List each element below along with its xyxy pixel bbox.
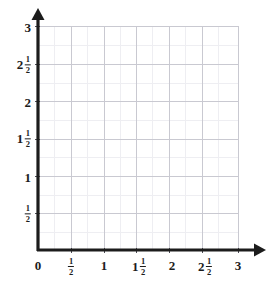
x-tick-5-denominator: 2 bbox=[206, 268, 212, 277]
major-gridlines bbox=[38, 26, 238, 250]
y-tick-1-whole: 1 bbox=[25, 171, 32, 184]
y-tick-label-2-half: 2 1 2 bbox=[17, 55, 31, 74]
y-tick-label-3: 3 bbox=[25, 21, 32, 34]
x-tick-1-fraction: 1 2 bbox=[68, 257, 74, 276]
x-tick-3-value: 1 1 2 bbox=[132, 257, 146, 276]
x-axis-arrowhead bbox=[254, 244, 266, 257]
x-tick-0-value: 0 bbox=[35, 259, 42, 272]
x-tick-4-value: 2 bbox=[169, 259, 176, 272]
y-tick-0-denominator: 2 bbox=[25, 215, 31, 224]
y-tick-2-numerator: 1 bbox=[25, 129, 31, 138]
y-axis bbox=[32, 8, 45, 251]
x-tick-3-numerator: 1 bbox=[140, 257, 146, 266]
x-tick-label-2: 2 bbox=[169, 259, 176, 272]
grid-and-axes bbox=[0, 0, 274, 282]
x-tick-6-whole: 3 bbox=[235, 259, 242, 272]
x-tick-3-whole: 1 bbox=[132, 260, 139, 273]
y-tick-2-whole: 1 bbox=[17, 133, 24, 146]
y-tick-5-whole: 3 bbox=[25, 21, 32, 34]
x-tick-1-denominator: 2 bbox=[68, 268, 74, 277]
x-tick-5-value: 2 1 2 bbox=[198, 257, 212, 276]
x-tick-label-half: 1 2 bbox=[68, 257, 74, 276]
y-tick-label-half: 1 2 bbox=[25, 204, 31, 223]
y-axis-arrowhead bbox=[32, 8, 45, 20]
y-tick-4-whole: 2 bbox=[17, 59, 24, 72]
y-tick-4-fraction: 1 2 bbox=[25, 55, 31, 74]
y-tick-0-fraction: 1 2 bbox=[25, 204, 31, 223]
x-tick-label-3: 3 bbox=[235, 259, 242, 272]
y-tick-1-value: 1 bbox=[25, 171, 32, 184]
y-tick-5-value: 3 bbox=[25, 21, 32, 34]
y-tick-4-numerator: 1 bbox=[25, 55, 31, 64]
x-tick-label-1: 1 bbox=[101, 259, 108, 272]
y-tick-0-numerator: 1 bbox=[25, 204, 31, 213]
coordinate-graph: 0 1 2 1 1 1 2 2 2 bbox=[0, 0, 274, 282]
y-tick-2-value: 1 1 2 bbox=[17, 129, 31, 148]
y-tick-2-denominator: 2 bbox=[25, 140, 31, 149]
x-tick-2-whole: 1 bbox=[101, 259, 108, 272]
x-tick-5-whole: 2 bbox=[198, 260, 205, 273]
x-tick-3-fraction: 1 2 bbox=[140, 257, 146, 276]
x-tick-5-numerator: 1 bbox=[206, 257, 212, 266]
y-tick-label-1-half: 1 1 2 bbox=[17, 129, 31, 148]
x-tick-1-numerator: 1 bbox=[68, 257, 74, 266]
y-tick-label-2: 2 bbox=[25, 96, 32, 109]
y-tick-2-fraction: 1 2 bbox=[25, 129, 31, 148]
y-tick-label-1: 1 bbox=[25, 171, 32, 184]
x-tick-5-fraction: 1 2 bbox=[206, 257, 212, 276]
minor-gridlines bbox=[38, 26, 238, 250]
x-tick-4-whole: 2 bbox=[169, 259, 176, 272]
x-tick-label-2-half: 2 1 2 bbox=[198, 257, 212, 276]
y-tick-3-value: 2 bbox=[25, 96, 32, 109]
x-tick-3-denominator: 2 bbox=[140, 268, 146, 277]
x-tick-6-value: 3 bbox=[235, 259, 242, 272]
y-tick-4-denominator: 2 bbox=[25, 66, 31, 75]
x-tick-2-value: 1 bbox=[101, 259, 108, 272]
y-tick-3-whole: 2 bbox=[25, 96, 32, 109]
x-tick-0-whole: 0 bbox=[35, 259, 42, 272]
y-tick-4-value: 2 1 2 bbox=[17, 55, 31, 74]
x-tick-label-0: 0 bbox=[35, 259, 42, 272]
x-tick-label-1-half: 1 1 2 bbox=[132, 257, 146, 276]
